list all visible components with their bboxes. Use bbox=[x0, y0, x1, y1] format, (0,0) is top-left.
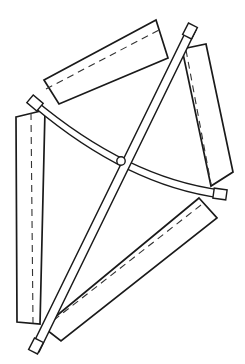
left-panel-face bbox=[16, 110, 45, 324]
cap-right-box bbox=[213, 188, 227, 200]
figure-root bbox=[0, 0, 245, 364]
center-pivot-ring bbox=[117, 157, 125, 165]
linkage-diagram-svg bbox=[0, 0, 245, 364]
cap-right bbox=[213, 188, 227, 200]
left-panel bbox=[16, 110, 45, 324]
center-pivot bbox=[117, 157, 125, 165]
